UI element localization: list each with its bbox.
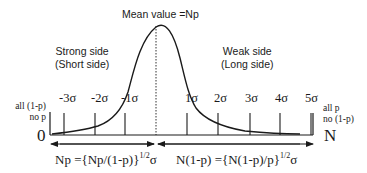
right-end-line2: no (1-p) — [323, 114, 354, 125]
distribution-curve — [52, 25, 300, 134]
axis-n-label: N — [324, 127, 336, 144]
left-formula-exponent: 1/2 — [139, 151, 149, 160]
tick-label-2sigma: 2σ — [214, 92, 227, 105]
right-end-label: all p no (1-p) — [323, 103, 354, 125]
strong-side-line1: Strong side — [55, 45, 109, 58]
strong-side-label: Strong side (Short side) — [55, 45, 109, 71]
left-formula-lhs: Np ={Np/(1-p)} — [55, 152, 139, 167]
tick-label-3sigma: 3σ — [245, 92, 258, 105]
tick-label-minus3sigma: -3σ — [59, 92, 76, 105]
right-span-formula: N(1-p) ={N(1-p)/p}1/2σ — [176, 152, 297, 166]
tick-label-minus1sigma: -1σ — [121, 92, 138, 105]
left-end-line1: all (1-p) — [6, 101, 46, 112]
strong-side-line2: (Short side) — [55, 58, 109, 71]
right-formula-unit: σ — [290, 152, 297, 167]
tick-label-minus2sigma: -2σ — [91, 92, 108, 105]
weak-side-line1: Weak side — [221, 45, 274, 58]
left-end-line2: no p — [6, 112, 46, 123]
diagram-graphics — [0, 0, 367, 173]
left-span-formula: Np ={Np/(1-p)}1/2σ — [55, 152, 157, 166]
mean-value-title: Mean value =Np — [122, 9, 199, 20]
weak-side-label: Weak side (Long side) — [221, 45, 274, 71]
right-formula-lhs: N(1-p) ={N(1-p)/p} — [176, 152, 280, 167]
axis-zero-label: 0 — [37, 127, 46, 144]
sigma-ticks — [64, 113, 311, 135]
distribution-diagram: Mean value =Np Strong side (Short side) … — [0, 0, 367, 173]
right-formula-exponent: 1/2 — [280, 151, 290, 160]
tick-label-5sigma: 5σ — [305, 92, 318, 105]
weak-side-line2: (Long side) — [221, 58, 274, 71]
tick-label-1sigma: 1σ — [185, 92, 198, 105]
left-end-label: all (1-p) no p — [6, 101, 46, 123]
right-end-line1: all p — [323, 103, 354, 114]
left-formula-unit: σ — [150, 152, 157, 167]
tick-label-4sigma: 4σ — [275, 92, 288, 105]
